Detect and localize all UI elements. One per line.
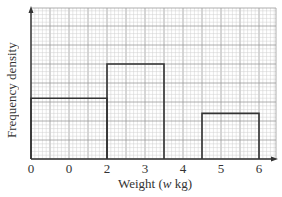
y-axis-arrow-icon — [29, 6, 34, 13]
y-axis-label: Frequency density — [3, 28, 21, 153]
x-tick-label: 5 — [214, 161, 228, 177]
x-tick-label: 0 — [24, 161, 38, 177]
x-tick-label: 0 — [62, 161, 76, 177]
graph-paper-grid — [31, 8, 276, 159]
x-axis-label-pre: Weight ( — [118, 176, 163, 191]
x-axis-arrow-icon — [271, 157, 278, 162]
x-axis-label-post: kg) — [171, 176, 192, 191]
histogram-bar — [107, 64, 164, 159]
x-tick-label: 4 — [176, 161, 190, 177]
x-axis-label: Weight (w kg) — [90, 176, 220, 192]
x-tick-label: 6 — [252, 161, 266, 177]
x-tick-label: 3 — [138, 161, 152, 177]
axes — [29, 6, 279, 162]
x-tick-label: 2 — [100, 161, 114, 177]
